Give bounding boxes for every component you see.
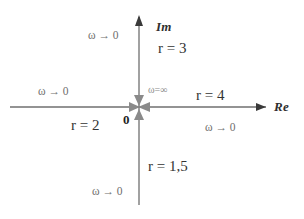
limit-label-bottom-right: ω → 0 <box>205 122 236 134</box>
real-axis-arrowhead <box>256 103 266 111</box>
complex-plane-figure: Im Re 0 ω=∞ r = 3 r = 4 r = 2 r = 1,5 ω … <box>0 0 304 219</box>
branch-label-up: r = 3 <box>158 41 186 56</box>
origin-label: 0 <box>123 113 130 126</box>
axes-and-arrows <box>0 0 304 219</box>
limit-label-top: ω → 0 <box>88 30 119 42</box>
branch-label-right: r = 4 <box>196 88 224 103</box>
omega-infinity-label: ω=∞ <box>148 85 167 95</box>
limit-label-bottom: ω → 0 <box>92 186 123 198</box>
branch-label-down: r = 1,5 <box>148 159 188 174</box>
imaginary-axis-arrowhead <box>135 15 143 26</box>
limit-label-left: ω → 0 <box>38 86 69 98</box>
branch-arrow-from-top <box>134 95 144 106</box>
branch-label-left: r = 2 <box>71 118 99 133</box>
real-axis-label: Re <box>274 100 289 113</box>
branch-arrow-from-bottom <box>134 109 144 120</box>
imaginary-axis-label: Im <box>156 20 172 33</box>
